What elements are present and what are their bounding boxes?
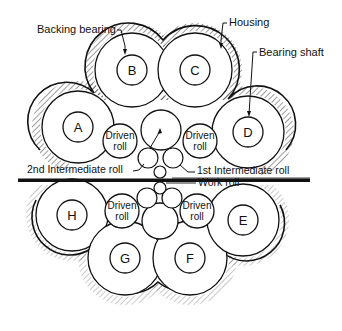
strip (18, 179, 310, 183)
driven-roll-bottom-left: Driven roll (105, 194, 139, 228)
svg-text:Driven: Driven (186, 130, 215, 141)
callout-backing-bearing: Backing bearing (37, 23, 116, 35)
driven-roll-top-right: Driven roll (183, 124, 217, 158)
svg-text:E: E (239, 213, 248, 228)
svg-text:Driven: Driven (106, 130, 135, 141)
svg-text:roll: roll (193, 141, 206, 152)
svg-text:D: D (243, 125, 252, 140)
callout-housing: Housing (229, 16, 269, 28)
first-intermediate-roll-top-left (138, 148, 158, 168)
first-intermediate-roll-bottom-left (137, 188, 157, 208)
callout-work-roll: Work roll (198, 176, 239, 188)
backing-bearing-A: A (42, 91, 114, 163)
svg-text:F: F (186, 251, 194, 266)
svg-text:roll: roll (113, 141, 126, 152)
svg-text:B: B (128, 63, 137, 78)
svg-text:roll: roll (115, 211, 128, 222)
svg-text:roll: roll (190, 211, 203, 222)
callout-first-intermediate-roll: 1st Intermediate roll (197, 164, 289, 176)
cluster-mill-diagram: A B C D H G F E Driven (0, 0, 342, 331)
svg-text:Driven: Driven (108, 200, 137, 211)
backing-bearing-D: D (212, 96, 284, 168)
second-intermediate-roll-top (141, 110, 181, 150)
driven-roll-top-left: Driven roll (103, 124, 137, 158)
work-roll-bottom (154, 182, 166, 194)
svg-text:H: H (67, 208, 76, 223)
svg-text:G: G (120, 251, 130, 266)
svg-text:A: A (74, 120, 83, 135)
driven-roll-bottom-right: Driven roll (180, 194, 214, 228)
work-roll-top (154, 166, 166, 178)
backing-bearing-E: E (207, 184, 279, 256)
callout-bearing-shaft: Bearing shaft (259, 46, 324, 58)
svg-text:C: C (190, 63, 199, 78)
svg-text:Driven: Driven (183, 200, 212, 211)
callout-second-intermediate-roll: 2nd Intermediate roll (27, 163, 123, 175)
